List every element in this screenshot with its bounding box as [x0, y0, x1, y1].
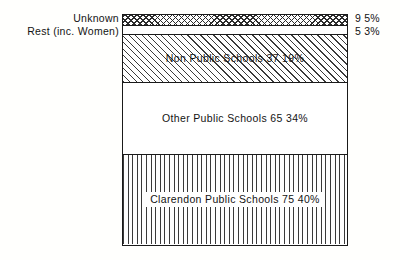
- segment-unknown: [123, 15, 347, 26]
- segment-percent-unknown: 5%: [364, 12, 380, 24]
- segment-percent-rest: 3%: [364, 25, 380, 37]
- segment-label-unknown: Unknown: [0, 13, 119, 24]
- segment-value-rest: 53%: [355, 26, 380, 37]
- segment-other-public-schools: Other Public Schools 65 34%: [123, 83, 347, 155]
- segment-count-rest: 5: [355, 25, 361, 37]
- segment-clarendon-public-schools: Clarendon Public Schools 75 40%: [123, 155, 347, 244]
- segment-label-clarendon-public-schools: Clarendon Public Schools 75 40%: [145, 192, 325, 208]
- bar-column: Non Public Schools 37 19% Other Public S…: [122, 14, 348, 246]
- segment-label-non-public-schools: Non Public Schools 37 19%: [166, 53, 304, 64]
- segment-count-unknown: 9: [355, 12, 361, 24]
- stacked-bar-chart: Unknown Rest (inc. Women) Non Public Sch…: [0, 0, 400, 260]
- segment-value-unknown: 95%: [355, 13, 380, 24]
- segment-label-rest: Rest (inc. Women): [0, 26, 119, 37]
- segment-rest: [123, 26, 347, 35]
- segment-label-other-public-schools: Other Public Schools 65 34%: [162, 113, 308, 124]
- segment-non-public-schools: Non Public Schools 37 19%: [123, 35, 347, 83]
